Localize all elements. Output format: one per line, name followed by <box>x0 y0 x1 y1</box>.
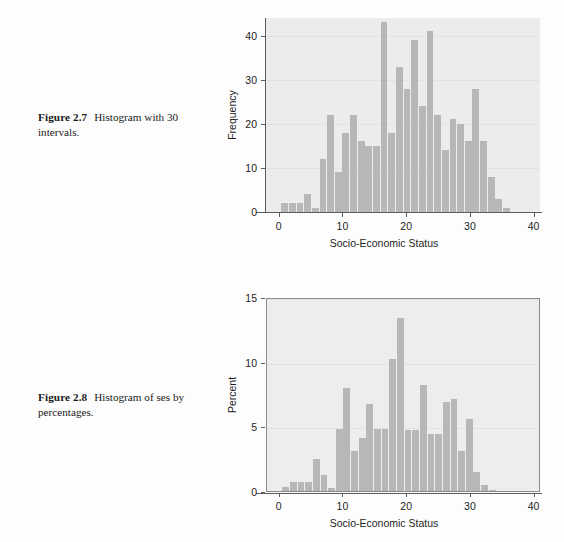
histogram-bar <box>304 194 311 212</box>
histogram-bar <box>480 141 487 212</box>
y-axis-tick-label: 10 <box>214 357 257 369</box>
y-axis-title: Frequency <box>226 90 238 140</box>
x-axis-tick-label: 20 <box>400 220 412 232</box>
chart-frequency-histogram: 010203040010203040Socio-Economic StatusF… <box>214 8 554 252</box>
x-axis-tick <box>279 213 280 217</box>
y-axis-tick-label: 0 <box>214 206 257 218</box>
histogram-bar <box>282 487 289 491</box>
plot-area <box>266 18 540 212</box>
y-axis-tick <box>261 124 265 125</box>
y-axis-tick-label: 15 <box>214 292 257 304</box>
histogram-bar <box>443 402 450 491</box>
histogram-bar <box>457 124 464 212</box>
histogram-bar <box>373 146 380 212</box>
x-axis-tick <box>279 493 280 497</box>
histogram-bar <box>495 199 502 212</box>
x-axis-tick-label: 40 <box>528 500 540 512</box>
plot-area <box>266 298 540 492</box>
histogram-bar <box>342 133 349 212</box>
histogram-bar <box>458 451 465 491</box>
histogram-bar <box>397 318 404 491</box>
histogram-bar <box>358 141 365 212</box>
histogram-bar <box>489 490 496 491</box>
histogram-bar <box>465 141 472 212</box>
histogram-bar <box>313 459 320 491</box>
histogram-bar <box>350 115 357 212</box>
x-axis-title: Socio-Economic Status <box>214 237 554 249</box>
histogram-bar <box>411 40 418 212</box>
x-axis-tick <box>406 213 407 217</box>
histogram-bar <box>389 359 396 491</box>
histogram-bar <box>289 203 296 212</box>
histogram-bar <box>450 119 457 212</box>
x-axis-tick <box>470 213 471 217</box>
histogram-bar <box>359 438 366 491</box>
histogram-bar <box>336 429 343 491</box>
x-axis-tick-label: 20 <box>400 500 412 512</box>
histogram-bar <box>343 388 350 491</box>
histogram-bar <box>351 451 358 491</box>
y-axis-tick <box>261 492 265 493</box>
y-axis-tick <box>261 427 265 428</box>
x-axis-tick-label: 10 <box>337 500 349 512</box>
figure-number-2: Figure 2.8 <box>38 391 87 403</box>
histogram-bar <box>435 434 442 491</box>
histogram-bar <box>420 385 427 491</box>
histogram-bar <box>366 404 373 491</box>
x-axis-tick <box>342 493 343 497</box>
histogram-bar <box>412 430 419 491</box>
histogram-bar <box>419 106 426 212</box>
x-axis-tick-label: 30 <box>464 220 476 232</box>
histogram-bar <box>298 482 305 491</box>
bar-series <box>267 299 539 491</box>
histogram-bar <box>297 203 304 212</box>
x-axis-tick-label: 0 <box>276 220 282 232</box>
y-axis-tick-label: 40 <box>214 30 257 42</box>
histogram-bar <box>328 488 335 491</box>
y-axis-title: Percent <box>226 377 238 413</box>
y-axis-tick-label: 30 <box>214 74 257 86</box>
histogram-bar <box>488 177 495 212</box>
x-axis-line <box>256 493 542 494</box>
y-axis-tick <box>261 80 265 81</box>
x-axis-title: Socio-Economic Status <box>214 517 554 529</box>
y-axis-tick <box>261 363 265 364</box>
y-axis-line <box>265 18 266 212</box>
histogram-bar <box>404 89 411 212</box>
histogram-bar <box>321 475 328 491</box>
y-axis-tick <box>261 168 265 169</box>
histogram-bar <box>365 146 372 212</box>
y-axis-tick <box>261 298 265 299</box>
figure-caption-2: Figure 2.8Histogram of ses by percentage… <box>38 390 220 420</box>
histogram-bar <box>290 482 297 491</box>
histogram-bar <box>305 482 312 491</box>
histogram-bar <box>434 115 441 212</box>
figure-histogram-frequency: 010203040010203040Socio-Economic StatusF… <box>214 8 554 252</box>
y-axis-tick-label: 10 <box>214 162 257 174</box>
y-axis-tick <box>261 212 265 213</box>
histogram-bar <box>428 434 435 491</box>
histogram-bar <box>374 429 381 491</box>
x-axis-tick <box>534 493 535 497</box>
histogram-bar <box>472 89 479 212</box>
x-axis-tick-label: 0 <box>276 500 282 512</box>
histogram-bar <box>442 150 449 212</box>
bar-series <box>266 18 540 212</box>
figure-histogram-percent: 051015010203040Socio-Economic StatusPerc… <box>214 288 554 532</box>
figure-number-1: Figure 2.7 <box>38 111 87 123</box>
x-axis-line <box>256 212 542 213</box>
x-axis-tick-label: 30 <box>464 500 476 512</box>
histogram-bar <box>451 399 458 491</box>
histogram-bar <box>388 133 395 212</box>
histogram-bar <box>396 67 403 213</box>
figure-caption-1: Figure 2.7Histogram with 30 intervals. <box>38 110 220 140</box>
chart-percent-histogram: 051015010203040Socio-Economic StatusPerc… <box>214 288 554 532</box>
x-axis-tick <box>534 213 535 217</box>
histogram-bar <box>381 22 388 212</box>
x-axis-tick <box>470 493 471 497</box>
histogram-bar <box>382 429 389 491</box>
document-page: Figure 2.7Histogram with 30 intervals. F… <box>0 0 564 542</box>
histogram-bar <box>320 159 327 212</box>
histogram-bar <box>405 430 412 491</box>
histogram-bar <box>473 472 480 491</box>
